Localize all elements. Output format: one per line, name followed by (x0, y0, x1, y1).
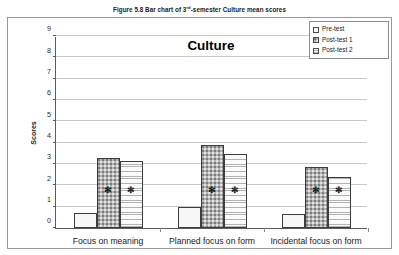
legend-swatch-icon (313, 48, 319, 54)
legend-item-post-test-1[interactable]: Post-test 1 (313, 35, 385, 45)
bar[interactable] (178, 207, 201, 228)
bar[interactable]: ✻ (120, 161, 143, 228)
y-tick-label: 1 (47, 196, 51, 203)
figure-caption-suffix: -semester Culture mean scores (191, 6, 286, 13)
legend-item-post-test-2[interactable]: Post-test 2 (313, 46, 385, 56)
bar[interactable] (74, 213, 97, 228)
y-tick-label: 7 (47, 68, 51, 75)
bar-group: ✻✻ (56, 37, 160, 228)
y-tick-label: 2 (47, 175, 51, 182)
legend-item-label: Post-test 1 (322, 37, 353, 43)
bar-group: ✻✻ (160, 37, 264, 228)
x-category-separator (160, 228, 161, 232)
y-tick-label: 4 (47, 132, 51, 139)
chart-frame: Scores Culture 0123456789✻✻Focus on mean… (7, 17, 392, 249)
y-axis-title: Scores (30, 121, 37, 144)
y-tick-label: 6 (47, 90, 51, 97)
y-tick-label: 8 (47, 47, 51, 54)
figure-caption: Figure 5.8 Bar chart of 3rd-semester Cul… (0, 6, 399, 13)
significance-marker-icon: ✻ (121, 186, 142, 195)
y-tick-label: 0 (47, 218, 51, 225)
legend-item-pre-test[interactable]: Pre-test (313, 25, 385, 35)
bar[interactable] (282, 214, 305, 228)
y-tick-label: 3 (47, 154, 51, 161)
x-category-separator (264, 228, 265, 232)
legend-item-label: Post-test 2 (322, 47, 353, 53)
bar[interactable]: ✻ (328, 177, 351, 228)
y-tick-label: 5 (47, 111, 51, 118)
x-category-label: Incidental focus on form (270, 237, 361, 246)
chart-legend: Pre-testPost-test 1Post-test 2 (309, 21, 389, 59)
legend-swatch-icon (313, 27, 319, 33)
bar[interactable]: ✻ (97, 158, 120, 228)
legend-item-label: Pre-test (322, 26, 344, 32)
figure-caption-prefix: Figure 5.8 Bar chart of 3 (113, 6, 186, 13)
significance-marker-icon: ✻ (329, 186, 350, 195)
plot-area: 0123456789✻✻Focus on meaning✻✻Planned fo… (55, 37, 367, 229)
significance-marker-icon: ✻ (225, 186, 246, 195)
x-category-label: Planned focus on form (169, 237, 255, 246)
significance-marker-icon: ✻ (202, 186, 223, 195)
bar-group: ✻✻ (264, 37, 368, 228)
bar[interactable]: ✻ (224, 154, 247, 228)
bar[interactable]: ✻ (305, 167, 328, 228)
x-category-separator (368, 228, 369, 232)
x-category-label: Focus on meaning (73, 237, 144, 246)
significance-marker-icon: ✻ (306, 186, 327, 195)
y-tick-mark (53, 35, 56, 36)
bar[interactable]: ✻ (201, 145, 224, 228)
y-tick-label: 9 (47, 26, 51, 33)
significance-marker-icon: ✻ (98, 186, 119, 195)
legend-swatch-icon (313, 37, 319, 43)
